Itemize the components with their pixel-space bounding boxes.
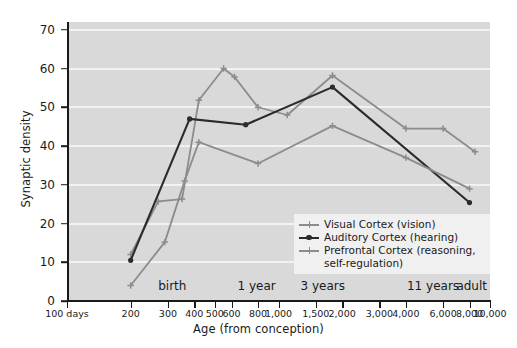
era-annotation-birth: birth	[158, 279, 186, 293]
x-tick-label: 2,000	[329, 308, 356, 319]
y-tick-mark	[61, 223, 67, 225]
y-tick-label: 50	[0, 100, 55, 114]
legend-item-prefrontal-cortex: Prefrontal Cortex (reasoning,	[298, 244, 486, 257]
data-point	[128, 258, 133, 263]
x-tick-label: 3,000	[366, 308, 393, 319]
x-tick-label: 100 days	[45, 308, 89, 319]
y-tick-label: 40	[0, 139, 55, 153]
y-tick-label: 30	[0, 178, 55, 192]
y-tick-mark	[61, 145, 67, 147]
x-tick-label: 10,000	[473, 308, 506, 319]
data-point	[330, 85, 335, 90]
legend-marker-auditory-cortex-icon	[298, 231, 320, 244]
x-tick-label: 1,000	[265, 308, 292, 319]
y-tick-label: 60	[0, 62, 55, 76]
chart-legend: Visual Cortex (vision) Auditory Cortex (…	[294, 214, 490, 274]
x-tick-label: 6,000	[429, 308, 456, 319]
legend-label-prefrontal-cortex: Prefrontal Cortex (reasoning,	[324, 244, 476, 257]
y-tick-label: 20	[0, 217, 55, 231]
data-point	[187, 116, 192, 121]
legend-item-visual-cortex: Visual Cortex (vision)	[298, 218, 486, 231]
x-tick-label: 500	[206, 308, 224, 319]
data-point	[467, 200, 472, 205]
x-tick-label: 1,500	[302, 308, 329, 319]
y-tick-mark	[61, 68, 67, 70]
x-axis-title: Age (from conception)	[0, 322, 517, 336]
legend-marker-visual-cortex-icon	[298, 218, 320, 231]
era-annotation-3-years: 3 years	[300, 279, 344, 293]
legend-item-auditory-cortex: Auditory Cortex (hearing)	[298, 231, 486, 244]
synaptic-density-chart-figure: Synaptic density 010203040506070 100 day…	[0, 0, 517, 348]
y-tick-mark	[61, 261, 67, 263]
era-annotation-adult: adult	[456, 279, 487, 293]
legend-marker-prefrontal-cortex-icon	[298, 244, 320, 257]
y-tick-mark	[61, 29, 67, 31]
data-point	[466, 185, 472, 191]
y-tick-mark	[61, 106, 67, 108]
y-tick-label: 0	[0, 294, 55, 308]
y-tick-label: 70	[0, 23, 55, 37]
y-tick-label: 10	[0, 255, 55, 269]
x-tick-label: 600	[223, 308, 241, 319]
era-annotation-11-years: 11 years	[407, 279, 459, 293]
x-tick-label: 300	[159, 308, 177, 319]
data-point	[255, 160, 261, 166]
x-tick-label: 200	[122, 308, 140, 319]
legend-label-visual-cortex: Visual Cortex (vision)	[324, 218, 436, 231]
x-tick-label: 4,000	[392, 308, 419, 319]
y-axis-line	[67, 22, 69, 302]
data-point	[403, 154, 409, 160]
y-tick-mark	[61, 184, 67, 186]
legend-label-prefrontal-cortex-continued: self-regulation)	[298, 257, 486, 270]
data-point	[181, 178, 187, 184]
x-tick-label: 400	[185, 308, 203, 319]
data-point	[329, 123, 335, 129]
data-point	[196, 139, 202, 145]
legend-label-auditory-cortex: Auditory Cortex (hearing)	[324, 231, 458, 244]
data-point	[243, 122, 248, 127]
era-annotation-1-year: 1 year	[238, 279, 276, 293]
